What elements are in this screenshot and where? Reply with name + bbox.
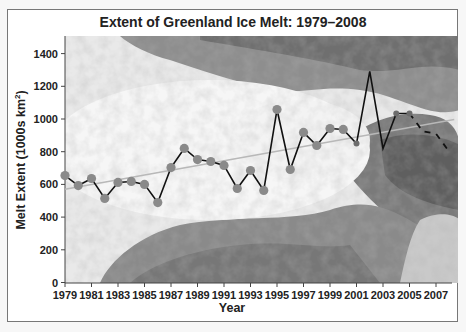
y-ticks: 0200400600800100012001400 — [34, 48, 65, 289]
data-point-marker — [193, 155, 202, 164]
x-tick-label: 1979 — [53, 289, 77, 301]
data-point-marker — [325, 124, 334, 133]
data-point-marker — [312, 141, 321, 150]
data-point-marker — [407, 110, 413, 116]
data-point-marker — [233, 184, 242, 193]
y-tick-label: 1000 — [34, 113, 58, 125]
data-point-marker — [74, 181, 83, 190]
data-point-marker — [127, 177, 136, 186]
x-tick-label: 1989 — [185, 289, 209, 301]
y-tick-label: 0 — [52, 277, 58, 289]
x-tick-label: 1987 — [159, 289, 183, 301]
x-tick-label: 1995 — [265, 289, 289, 301]
data-point-marker — [259, 186, 268, 195]
data-point-marker — [272, 105, 281, 114]
x-tick-label: 1981 — [79, 289, 103, 301]
data-point-marker — [166, 163, 175, 172]
y-tick-label: 600 — [40, 178, 58, 190]
y-tick-label: 200 — [40, 244, 58, 256]
data-point-marker — [354, 141, 360, 147]
data-point-marker — [153, 198, 162, 207]
x-tick-label: 1999 — [318, 289, 342, 301]
data-point-marker — [87, 174, 96, 183]
x-tick-label: 2007 — [424, 289, 448, 301]
y-tick-label: 800 — [40, 146, 58, 158]
x-tick-label: 2003 — [371, 289, 395, 301]
data-point-marker — [246, 166, 255, 175]
y-tick-label: 1400 — [34, 48, 58, 60]
chart-canvas: 0200400600800100012001400 19791981198319… — [0, 0, 466, 332]
x-tick-label: 2005 — [397, 289, 421, 301]
x-tick-label: 1983 — [106, 289, 130, 301]
data-point-marker — [286, 165, 295, 174]
data-point-marker — [140, 180, 149, 189]
x-tick-label: 1991 — [212, 289, 236, 301]
background-image — [50, 36, 460, 283]
y-tick-label: 400 — [40, 211, 58, 223]
x-axis-label: Year — [219, 301, 246, 315]
x-tick-label: 1993 — [238, 289, 262, 301]
x-tick-label: 2001 — [344, 289, 368, 301]
x-tick-label: 1985 — [132, 289, 156, 301]
y-tick-label: 1200 — [34, 80, 58, 92]
y-axis-label: Melt Extent (1000s km2) — [13, 90, 28, 229]
data-point-marker — [113, 178, 122, 187]
x-ticks: 1979198119831985198719891991199319951997… — [53, 283, 448, 301]
data-point-marker — [60, 171, 69, 180]
data-point-marker — [206, 157, 215, 166]
data-point-marker — [219, 161, 228, 170]
data-point-marker — [393, 110, 399, 116]
data-point-marker — [299, 128, 308, 137]
data-point-marker — [180, 144, 189, 153]
data-point-marker — [339, 125, 348, 134]
data-point-marker — [100, 194, 109, 203]
x-tick-label: 1997 — [291, 289, 315, 301]
